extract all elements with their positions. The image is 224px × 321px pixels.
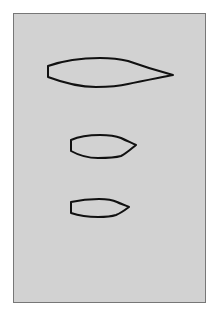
hull-outline-large [48, 58, 173, 87]
hull-outline-small [71, 199, 129, 217]
hull-outline-medium [71, 135, 136, 158]
hull-shapes-diagram [0, 0, 224, 321]
